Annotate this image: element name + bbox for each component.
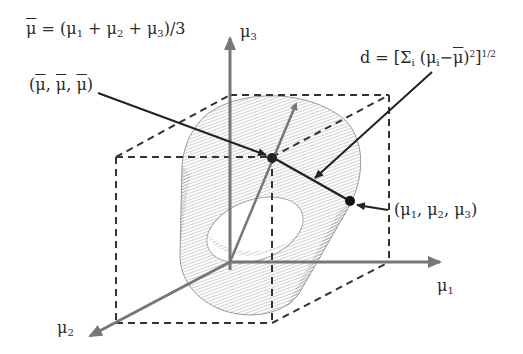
mean-equation: μ = (μ1 + μ2 + μ3)/3 [26, 21, 186, 39]
mu2-label: μ2 [57, 320, 74, 338]
mean-point [267, 153, 277, 163]
mu1-label: μ1 [437, 278, 454, 296]
sample-point [345, 196, 355, 206]
sample-pointer [357, 205, 388, 210]
cylinder [180, 96, 361, 315]
sample-point-label: (μ1, μ2, μ3) [394, 202, 477, 220]
mean-point-label: (μ, μ, μ) [29, 77, 93, 93]
distance-equation: d = [Σi (μi−μ)2]1/2 [360, 50, 496, 68]
mu3-label: μ3 [240, 24, 257, 42]
